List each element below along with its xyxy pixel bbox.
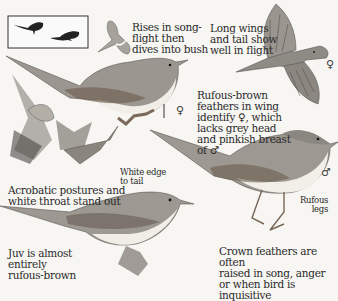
caption-line: of ♂ <box>197 145 291 156</box>
caption-line: legs <box>300 205 328 214</box>
caption-line: Crown feathers are often <box>219 246 338 268</box>
female-symbol-flight: ♀ <box>326 58 334 71</box>
long-wings-caption: Long wings and tail show well in flight <box>210 23 277 56</box>
song-flight-caption: Rises in song- flight then dives into bu… <box>132 22 208 55</box>
caption-line: or when bird is inquisitive <box>219 279 338 301</box>
caption-line: white throat stand out <box>8 196 125 207</box>
crown-caption: Crown feathers are often raised in song,… <box>219 246 338 301</box>
song-flight-bird-icon <box>98 21 130 54</box>
rufous-brown-caption: Rufous-brown feathers in wing identify ♀… <box>197 90 291 156</box>
white-edge-caption: White edge to tail <box>120 168 166 186</box>
caption-line: well in flight <box>210 45 277 56</box>
female-symbol-perched: ♀ <box>176 104 184 117</box>
rufous-legs-caption: Rufous legs <box>300 196 328 214</box>
caption-line: rufous-brown <box>8 270 76 281</box>
caption-line: dives into bush <box>132 44 208 55</box>
male-symbol: ♂ <box>321 166 331 179</box>
acrobatic-caption: Acrobatic postures and white throat stan… <box>8 185 125 207</box>
juvenile-caption: Juv is almost entirely rufous-brown <box>8 248 76 281</box>
caption-line: to tail <box>120 177 166 186</box>
